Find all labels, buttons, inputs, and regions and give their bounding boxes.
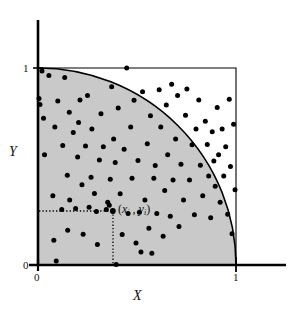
scatter-point — [135, 158, 140, 163]
scatter-point — [218, 200, 223, 205]
y-tick-label-0: 0 — [23, 260, 29, 271]
monte-carlo-scatter-figure: Y X 1 0 0 1 (xi , yi) — [0, 0, 298, 317]
scatter-point — [228, 164, 233, 169]
scatter-point — [104, 207, 109, 212]
annotated-sample-point — [110, 208, 116, 214]
scatter-point — [59, 207, 64, 212]
scatter-point — [75, 155, 80, 160]
scatter-point — [89, 175, 94, 180]
scatter-point — [89, 127, 94, 132]
scatter-point — [178, 162, 183, 167]
scatter-point — [107, 203, 112, 208]
scatter-point — [67, 110, 72, 115]
scatter-point — [203, 119, 208, 124]
scatter-point — [169, 82, 174, 87]
scatter-point — [221, 173, 226, 178]
scatter-point — [65, 228, 70, 233]
scatter-point — [158, 125, 163, 130]
scatter-point — [183, 113, 188, 118]
scatter-point — [95, 242, 100, 247]
scatter-point — [42, 152, 47, 157]
scatter-point — [60, 143, 65, 148]
scatter-point — [225, 212, 230, 217]
scatter-point — [134, 240, 139, 245]
scatter-point — [71, 130, 76, 135]
scatter-point — [208, 215, 213, 220]
scatter-point — [50, 193, 55, 198]
scatter-point — [157, 87, 162, 92]
scatter-point — [216, 152, 221, 157]
scatter-point — [171, 177, 176, 182]
scatter-point — [92, 191, 97, 196]
scatter-point — [87, 205, 92, 210]
scatter-point — [108, 177, 113, 182]
scatter-point — [109, 84, 114, 89]
scatter-point — [94, 209, 99, 214]
scatter-point — [223, 144, 228, 149]
scatter-point — [118, 191, 123, 196]
scatter-point — [211, 158, 216, 163]
scatter-point — [184, 86, 189, 91]
scatter-point — [65, 173, 70, 178]
scatter-point — [54, 259, 59, 264]
scatter-point — [85, 93, 90, 98]
scatter-point — [120, 232, 125, 237]
scatter-point — [215, 105, 220, 110]
scatter-point — [231, 122, 236, 127]
scatter-point — [176, 224, 181, 229]
scatter-point — [79, 182, 84, 187]
scatter-point — [194, 127, 199, 132]
scatter-point — [111, 136, 116, 141]
scatter-point — [230, 231, 235, 236]
scatter-point — [145, 141, 150, 146]
scatter-point — [146, 226, 151, 231]
scatter-point — [187, 177, 192, 182]
scatter-point — [206, 173, 211, 178]
scatter-point — [41, 116, 46, 121]
scatter-point — [168, 214, 173, 219]
scatter-point — [76, 120, 81, 125]
scatter-point — [154, 211, 159, 216]
scatter-point — [200, 193, 205, 198]
quarter-disk-region — [38, 68, 236, 265]
scatter-point — [227, 97, 232, 102]
y-axis-label: Y — [9, 145, 17, 159]
scatter-point — [161, 234, 166, 239]
scatter-point — [151, 176, 156, 181]
scatter-point — [205, 142, 210, 147]
scatter-point — [220, 127, 225, 132]
scatter-point — [97, 158, 102, 163]
x-axis-label: X — [133, 289, 142, 303]
x-tick-label-1: 1 — [233, 272, 239, 283]
scatter-point — [55, 98, 60, 103]
scatter-point — [62, 75, 67, 80]
scatter-point — [210, 129, 215, 134]
scatter-point — [162, 188, 167, 193]
scatter-point — [132, 98, 137, 103]
scatter-point — [130, 176, 135, 181]
scatter-point — [51, 238, 56, 243]
scatter-point — [52, 125, 57, 130]
scatter-point — [164, 103, 169, 108]
scatter-point — [83, 144, 88, 149]
scatter-point — [153, 163, 158, 168]
scatter-point — [149, 251, 154, 256]
scatter-point — [173, 136, 178, 141]
scatter-point — [138, 250, 143, 255]
scatter-point — [196, 97, 201, 102]
scatter-point — [116, 105, 121, 110]
scatter-point — [113, 160, 118, 165]
scatter-point — [98, 111, 103, 116]
scatter-point — [81, 232, 86, 237]
scatter-point — [101, 144, 106, 149]
x-tick-label-0: 0 — [34, 272, 40, 283]
point-annotation-label: (xi , yi) — [118, 203, 150, 217]
plot-canvas — [0, 0, 298, 317]
scatter-point — [181, 197, 186, 202]
scatter-point — [213, 184, 218, 189]
y-tick-label-1: 1 — [23, 63, 29, 74]
scatter-point — [165, 152, 170, 157]
scatter-point — [37, 102, 42, 107]
scatter-point — [73, 206, 78, 211]
scatter-point — [39, 68, 44, 73]
